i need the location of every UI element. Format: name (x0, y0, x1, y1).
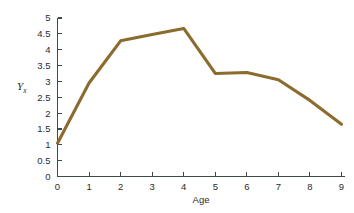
y-tick-label: 1.5 (37, 123, 50, 134)
chart-canvas: 00.511.522.533.544.55 0123456789 Age Yx (0, 0, 354, 213)
x-tick-label: 9 (339, 181, 344, 192)
y-tick-label: 4.5 (37, 28, 50, 39)
y-axis-tick-labels: 00.511.522.533.544.55 (37, 12, 50, 182)
x-tick-label: 6 (244, 181, 249, 192)
x-tick-label: 0 (55, 181, 60, 192)
y-tick-label: 1 (45, 139, 50, 150)
x-tick-label: 2 (118, 181, 123, 192)
x-tick-label: 7 (276, 181, 281, 192)
y-tick-label: 5 (45, 12, 50, 23)
y-tick-label: 3.5 (37, 60, 50, 71)
y-tick-label: 2 (45, 108, 50, 119)
x-tick-label: 3 (150, 181, 155, 192)
line-chart: 00.511.522.533.544.55 0123456789 Age Yx (0, 0, 354, 213)
x-tick-label: 4 (181, 181, 186, 192)
chart-background (0, 0, 354, 213)
y-axis-title-subscript: x (22, 86, 27, 95)
x-tick-label: 5 (213, 181, 218, 192)
x-axis-title: Age (193, 194, 210, 205)
y-tick-label: 3 (45, 76, 50, 87)
y-tick-label: 0.5 (37, 155, 50, 166)
y-tick-label: 4 (45, 44, 50, 55)
y-tick-label: 2.5 (37, 92, 50, 103)
x-tick-label: 1 (86, 181, 91, 192)
x-tick-label: 8 (307, 181, 312, 192)
y-tick-label: 0 (45, 171, 50, 182)
